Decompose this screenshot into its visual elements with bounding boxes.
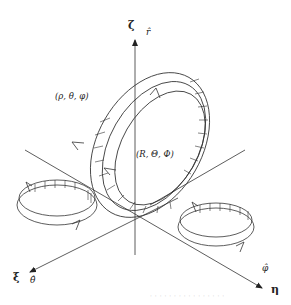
phi-hat-label: φ̂	[262, 264, 268, 273]
left-ring	[17, 180, 97, 230]
right-ring	[178, 202, 254, 252]
xi-axis	[30, 198, 178, 272]
inner-ring-coordinates: (R, Θ, Φ)	[136, 150, 174, 159]
r-hat-label: r̂	[146, 28, 150, 37]
large-ring	[66, 51, 234, 238]
xi-axis-label: ξ	[13, 272, 20, 283]
caption: · · · · · · · · · · · · · · · ·	[150, 292, 225, 299]
zeta-axis-label: ζ	[128, 20, 135, 31]
eta-axis	[25, 150, 262, 288]
outer-ring-coordinates: (ρ, θ, φ)	[55, 92, 89, 101]
axes	[25, 40, 262, 288]
theta-hat-label: θ̂	[30, 276, 35, 285]
eta-axis-label: η	[271, 284, 279, 295]
